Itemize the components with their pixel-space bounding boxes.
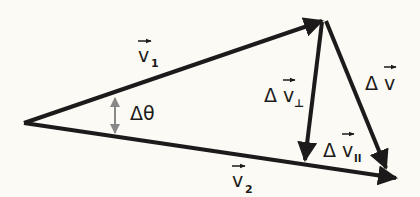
svg-text:1: 1 [151, 57, 159, 70]
svg-text:2: 2 [245, 183, 253, 196]
vector-v2 [24, 123, 396, 178]
label-v2: v 2 [232, 166, 253, 196]
svg-text:Δ: Δ [365, 72, 378, 94]
label-delta-v-parallel: Δ v II [323, 134, 361, 164]
svg-text:Δ: Δ [323, 139, 336, 161]
label-delta-v: Δ v [365, 67, 396, 94]
svg-text:v: v [283, 84, 294, 106]
svg-text:v: v [342, 139, 353, 161]
svg-text:II: II [354, 153, 361, 164]
svg-text:v: v [138, 44, 149, 66]
svg-text:⊥: ⊥ [294, 97, 304, 110]
label-delta-v-perp: Δ v ⊥ [264, 80, 304, 110]
svg-text:Δ: Δ [264, 84, 277, 106]
label-v1: v 1 [138, 41, 159, 70]
label-delta-theta: Δθ [130, 102, 155, 124]
svg-text:v: v [232, 169, 243, 191]
velocity-diagram: v 1 v 2 Δθ Δ v ⊥ Δ v Δ v II [0, 0, 420, 197]
vector-delta-v-perp [305, 22, 322, 160]
vector-v1 [24, 21, 322, 123]
svg-text:v: v [384, 72, 395, 94]
